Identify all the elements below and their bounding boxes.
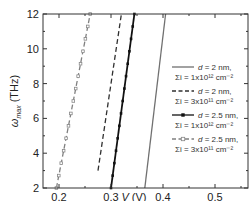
legend-sublabel: Σi = 3x10¹¹ cm⁻² (175, 145, 233, 154)
data-marker (125, 75, 128, 78)
y-axis-label: ωmax (THz) (8, 75, 22, 127)
data-marker (84, 38, 87, 41)
y-tick-label: 10 (27, 43, 39, 55)
data-marker (130, 38, 133, 41)
data-marker (70, 112, 73, 115)
legend-sublabel: Σi = 1x10¹² cm⁻² (175, 73, 233, 82)
data-marker (74, 87, 77, 90)
y-tick-label: 2 (33, 182, 39, 194)
data-marker (121, 100, 124, 103)
data-marker (181, 137, 184, 140)
data-marker (111, 174, 114, 177)
data-marker (113, 162, 116, 165)
data-marker (62, 149, 65, 152)
data-marker (58, 174, 61, 177)
data-marker (128, 50, 131, 53)
data-marker (60, 162, 63, 165)
data-marker (118, 125, 121, 128)
data-marker (79, 62, 82, 65)
data-marker (67, 125, 70, 128)
x-tick-label: 0.5 (207, 191, 222, 201)
x-tick-label: 0.2 (51, 191, 66, 201)
y-tick-label: 4 (33, 147, 39, 159)
data-marker (181, 113, 184, 116)
x-axis-label: V (V) (121, 191, 146, 201)
legend-item: d = 2 nm,Σi = 3x10¹¹ cm⁻² (172, 87, 233, 106)
legend-item: d = 2 nm,Σi = 1x10¹² cm⁻² (172, 63, 233, 82)
legend-label: d = 2 nm, (198, 87, 232, 96)
legend-label: d = 2.5 nm, (198, 111, 238, 120)
data-marker (72, 100, 75, 103)
data-marker (116, 137, 119, 140)
data-marker (126, 62, 129, 65)
data-marker (82, 50, 85, 53)
data-marker (123, 87, 126, 90)
legend: d = 2 nm,Σi = 1x10¹² cm⁻²d = 2 nm,Σi = 3… (172, 63, 238, 154)
data-marker (65, 137, 68, 140)
y-tick-label: 8 (33, 78, 39, 90)
series-line (98, 14, 121, 171)
data-marker (120, 112, 123, 115)
legend-item: d = 2.5 nm,Σi = 3x10¹¹ cm⁻² (172, 135, 238, 154)
legend-label: d = 2.5 nm, (198, 135, 238, 144)
data-marker (131, 25, 134, 28)
plot-lines (55, 13, 166, 190)
legend-sublabel: Σi = 1x10¹² cm⁻² (175, 121, 233, 130)
y-tick-label: 6 (33, 112, 39, 124)
data-marker (115, 149, 118, 152)
data-marker (77, 75, 80, 78)
series-line (145, 14, 166, 188)
legend-label: d = 2 nm, (198, 63, 232, 72)
y-tick-label: 12 (27, 8, 39, 20)
legend-item: d = 2.5 nm,Σi = 1x10¹² cm⁻² (172, 111, 238, 130)
legend-sublabel: Σi = 3x10¹¹ cm⁻² (175, 97, 233, 106)
x-tick-label: 0.3 (103, 191, 118, 201)
data-marker (86, 25, 89, 28)
x-tick-label: 0.4 (155, 191, 170, 201)
chart: 0.20.30.40.5 24681012 V (V) ωmax (THz) d… (0, 0, 252, 201)
